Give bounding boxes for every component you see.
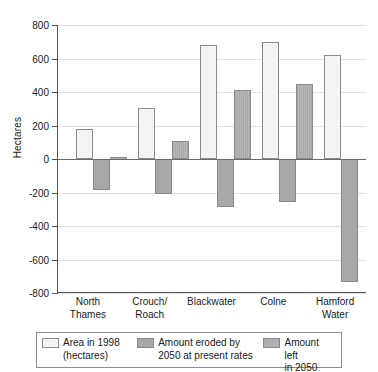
x-axis-label: North Thames [57,296,119,321]
bar [324,55,341,159]
legend-swatch-icon [263,338,280,348]
chart-root: Hectares 8006004002000-200-400-600-800 N… [0,0,378,372]
y-axis-tick [52,293,58,294]
bar [341,159,358,282]
legend-item: Area in 1998 (hectares) [42,337,130,362]
legend-label: Amount left in 2050 [284,337,329,372]
gridline [58,293,366,294]
y-axis-tick-label: -600 [29,254,49,265]
x-axis-label: Crouch/ Roach [119,296,181,321]
bar [172,141,189,159]
bar [76,129,93,159]
bar [155,159,172,194]
bar [296,84,313,159]
y-axis-title: Hectares [12,93,23,183]
y-axis-tick-label: 0 [43,154,49,165]
y-axis-tick-label: 200 [32,120,49,131]
x-axis-label: Colne [242,296,304,309]
x-axis-label: Hamford Water [304,296,366,321]
bar [93,159,110,190]
y-axis-tick-label: -800 [29,288,49,299]
plot-area: 8006004002000-200-400-600-800 [57,25,366,293]
legend-item: Amount left in 2050 [263,337,329,372]
x-axis-label: Blackwater [181,296,243,309]
bar [200,45,217,159]
chart-legend: Area in 1998 (hectares)Amount eroded by … [36,332,342,368]
legend-swatch-icon [137,338,154,348]
bar [234,90,251,159]
y-axis-tick-label: -200 [29,187,49,198]
bar [279,159,296,202]
legend-label: Amount eroded by 2050 at present rates [158,337,253,362]
legend-swatch-icon [42,338,59,348]
bar [217,159,234,207]
y-axis-tick-label: 800 [32,20,49,31]
legend-item: Amount eroded by 2050 at present rates [137,337,256,362]
y-axis-tick-label: -400 [29,221,49,232]
zero-line [58,159,366,160]
legend-label: Area in 1998 (hectares) [63,337,120,362]
y-axis-tick-label: 600 [32,53,49,64]
bar [262,42,279,159]
bar [138,108,155,159]
y-axis-tick-label: 400 [32,87,49,98]
